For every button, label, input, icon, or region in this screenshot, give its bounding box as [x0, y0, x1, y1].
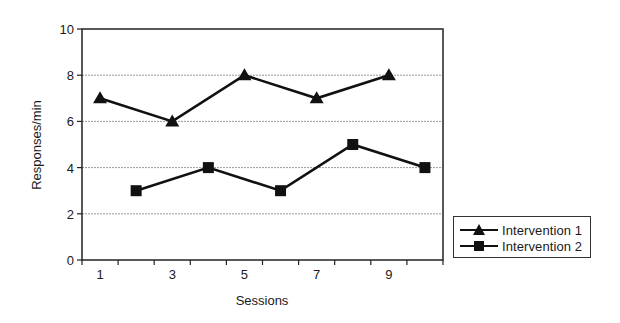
series-line — [100, 75, 389, 121]
y-tick-label: 2 — [67, 207, 74, 222]
square-marker — [419, 162, 430, 173]
y-tick-label: 6 — [67, 114, 74, 129]
square-marker — [131, 185, 142, 196]
x-axis-title: Sessions — [236, 293, 289, 308]
y-tick-label: 10 — [60, 22, 74, 37]
triangle-marker-icon — [460, 223, 498, 237]
legend: Intervention 1 Intervention 2 — [453, 216, 591, 258]
x-tick-label: 5 — [241, 267, 248, 282]
x-tick-label: 3 — [169, 267, 176, 282]
x-tick-label: 7 — [313, 267, 320, 282]
y-axis-title: Responses/min — [29, 100, 44, 190]
square-marker — [275, 185, 286, 196]
y-tick-label: 4 — [67, 161, 74, 176]
series-group — [93, 68, 430, 196]
legend-item-intervention-1: Intervention 1 — [460, 223, 582, 237]
x-axis: 13579 — [82, 260, 443, 282]
y-tick-label: 0 — [67, 253, 74, 268]
x-tick-label: 9 — [385, 267, 392, 282]
x-tick-label: 1 — [96, 267, 103, 282]
triangle-marker — [237, 68, 251, 80]
legend-label: Intervention 2 — [502, 239, 582, 254]
series-intervention-1 — [93, 68, 396, 126]
y-tick-label: 8 — [67, 68, 74, 83]
y-axis: 0246810 — [60, 22, 82, 268]
line-chart: 0246810 13579 Responses/min Sessions — [0, 0, 620, 323]
legend-item-intervention-2: Intervention 2 — [460, 239, 582, 253]
triangle-marker — [382, 68, 396, 80]
triangle-marker — [93, 91, 107, 103]
plot-area-border — [82, 29, 443, 260]
square-marker — [347, 139, 358, 150]
legend-label: Intervention 1 — [502, 223, 582, 238]
square-marker — [203, 162, 214, 173]
square-marker-icon — [460, 239, 498, 253]
